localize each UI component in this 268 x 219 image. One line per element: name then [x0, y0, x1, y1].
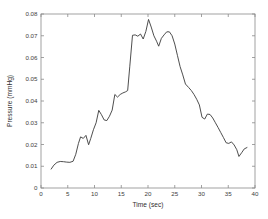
y-tick-label: 0.08 [25, 10, 38, 17]
x-tick-label: 30 [198, 190, 205, 197]
y-tick-label: 0.04 [25, 97, 38, 104]
y-tick-label: 0.01 [25, 162, 38, 169]
x-tick-label: 0 [39, 190, 43, 197]
y-tick-label: 0.02 [25, 141, 38, 148]
y-axis-tick-labels: 00.010.020.030.040.050.060.070.08 [25, 10, 38, 191]
y-tick-label: 0.03 [25, 119, 38, 126]
y-tick-label: 0.05 [25, 75, 38, 82]
y-axis-title: Pressure (mmHg) [6, 75, 14, 127]
pressure-vs-time-line-chart: 0510152025303540 00.010.020.030.040.050.… [0, 0, 268, 219]
y-axis-ticks [41, 14, 255, 188]
x-tick-label: 15 [118, 190, 125, 197]
x-tick-label: 10 [91, 190, 98, 197]
plot-box [41, 14, 255, 188]
y-tick-label: 0 [34, 184, 38, 191]
x-tick-label: 35 [225, 190, 232, 197]
y-tick-label: 0.07 [25, 32, 38, 39]
x-tick-label: 5 [66, 190, 70, 197]
y-tick-label: 0.06 [25, 54, 38, 61]
x-axis-title: Time (sec) [133, 201, 164, 209]
data-series-group [51, 19, 247, 169]
x-tick-label: 25 [171, 190, 178, 197]
x-axis-tick-labels: 0510152025303540 [39, 190, 259, 197]
pressure-line [51, 19, 247, 169]
x-tick-label: 20 [145, 190, 152, 197]
plot-frame [41, 14, 255, 188]
x-tick-label: 40 [252, 190, 259, 197]
chart-figure: 0510152025303540 00.010.020.030.040.050.… [0, 0, 268, 219]
x-axis-ticks [41, 14, 255, 188]
